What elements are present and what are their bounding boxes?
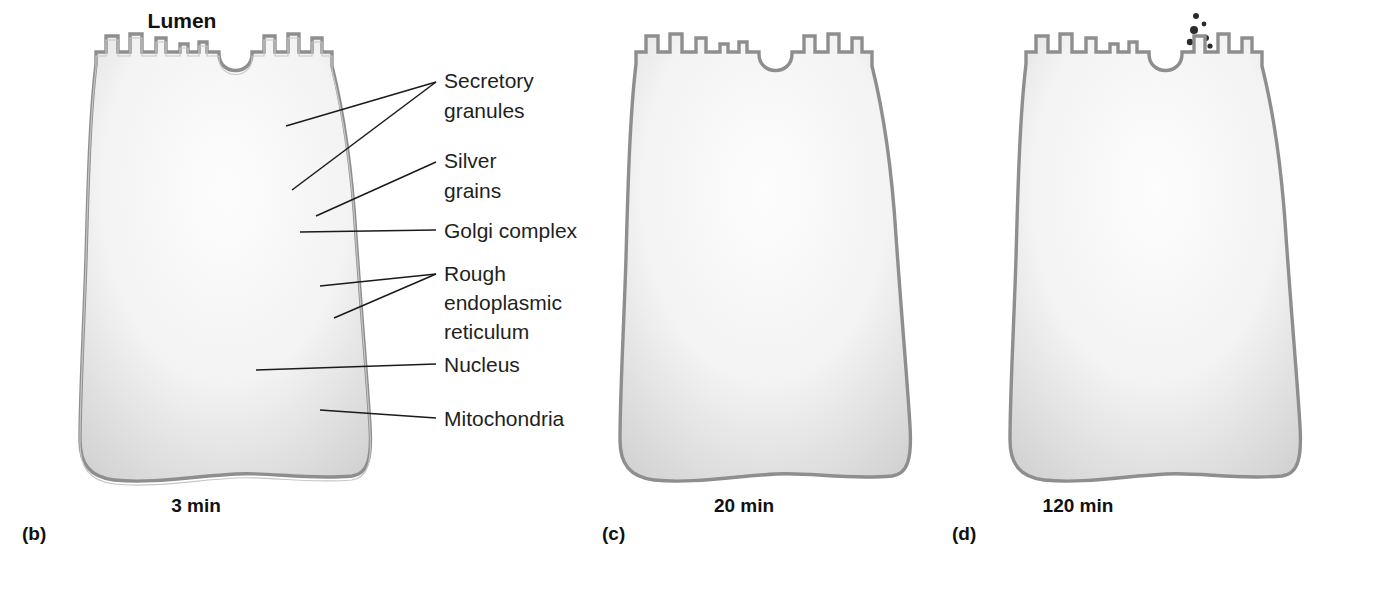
panel-b-time: 3 min [171, 495, 221, 516]
label-silver-grains-line2: grains [444, 179, 501, 202]
cell-autoradiography-figure: Lumen [0, 0, 1394, 593]
panel-b-letter: (b) [22, 523, 46, 544]
panel-d-letter: (d) [952, 523, 976, 544]
label-nucleus: Nucleus [444, 353, 520, 376]
label-rough-er-line3: reticulum [444, 320, 529, 343]
callout-labels: Secretory granules Silver grains Golgi c… [444, 69, 578, 430]
panel-c-time: 20 min [714, 495, 774, 516]
panel-c-letter: (c) [602, 523, 625, 544]
figure-canvas: Lumen [0, 0, 1394, 593]
label-mitochondria: Mitochondria [444, 407, 565, 430]
panel-d-time: 120 min [1043, 495, 1114, 516]
label-secretory-granules-line1: Secretory [444, 69, 534, 92]
panel-d-cell [996, 13, 1300, 482]
panel-c-cell [606, 34, 910, 482]
label-silver-grains-line1: Silver [444, 149, 497, 172]
label-secretory-granules-line2: granules [444, 99, 525, 122]
panel-b-cell [66, 34, 379, 485]
label-rough-er-line2: endoplasmic [444, 291, 562, 314]
label-golgi-complex: Golgi complex [444, 219, 578, 242]
label-rough-er-line1: Rough [444, 262, 506, 285]
lumen-title: Lumen [148, 9, 217, 32]
